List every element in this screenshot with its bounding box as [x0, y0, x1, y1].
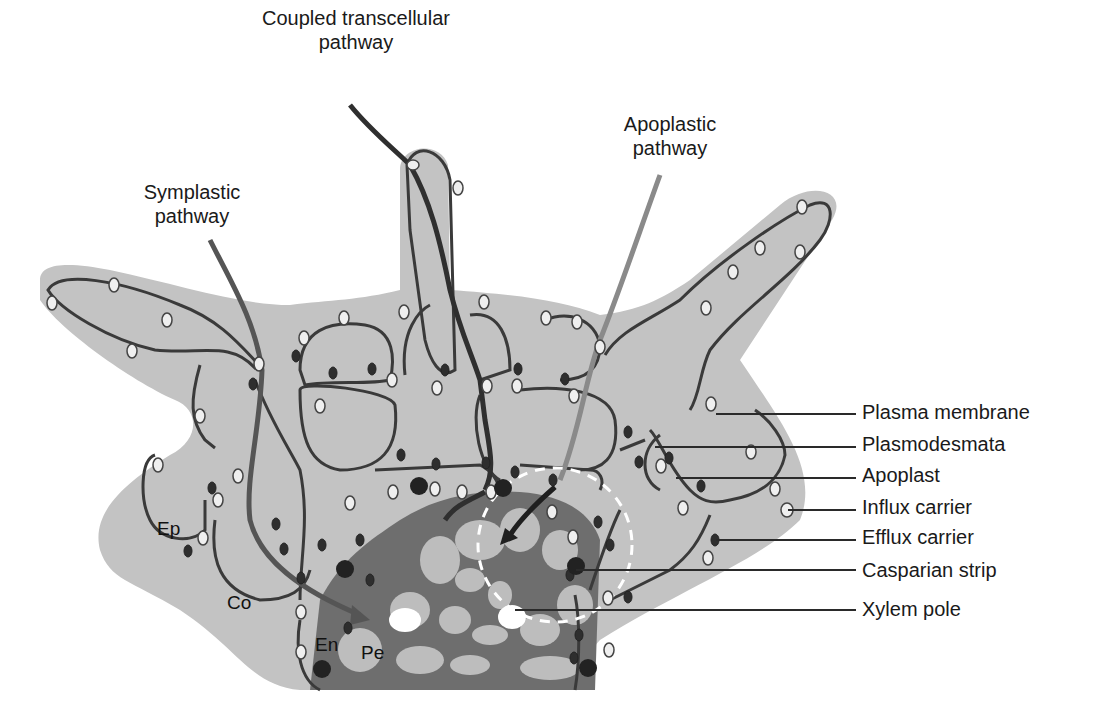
xylem-pole-left	[389, 608, 421, 632]
tissue-label-endodermis: En	[315, 634, 338, 656]
legend-plasma-membrane: Plasma membrane	[862, 400, 1030, 424]
symplastic-pathway-label-line1: Symplastic	[122, 180, 262, 204]
apoplastic-pathway-label-line2: pathway	[600, 136, 740, 160]
tissue-label-pericycle: Pe	[361, 642, 384, 664]
legend-xylem-pole: Xylem pole	[862, 597, 961, 621]
legend-efflux-carrier: Efflux carrier	[862, 525, 974, 549]
legend-casparian-strip: Casparian strip	[862, 558, 997, 582]
apoplastic-pathway-label: Apoplastic pathway	[600, 112, 740, 160]
legend-apoplast: Apoplast	[862, 463, 940, 487]
apoplastic-pathway-label-line1: Apoplastic	[600, 112, 740, 136]
coupled-pathway-label-line2: pathway	[226, 30, 486, 54]
coupled-pathway-label-line1: Coupled transcellular	[226, 6, 486, 30]
tissue-label-cortex: Co	[227, 592, 251, 614]
tissue-label-epidermis: Ep	[157, 518, 180, 540]
legend-plasmodesmata: Plasmodesmata	[862, 432, 1005, 456]
symplastic-pathway-label: Symplastic pathway	[122, 180, 262, 228]
coupled-pathway-label: Coupled transcellular pathway	[226, 6, 486, 54]
legend-influx-carrier: Influx carrier	[862, 495, 972, 519]
symplastic-pathway-label-line2: pathway	[122, 204, 262, 228]
